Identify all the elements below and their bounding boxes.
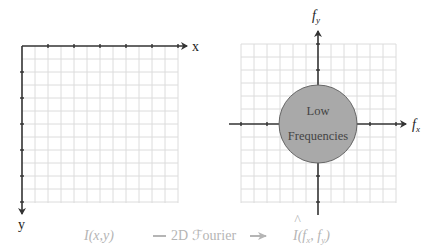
x-axis-label: x: [192, 39, 199, 54]
fy-axis-label: fy: [312, 8, 320, 25]
low-frequencies-circle: [279, 85, 357, 163]
frequency-image-caption: ^ I(fx, fy): [292, 213, 330, 245]
fx-axis-label: fx: [412, 117, 420, 134]
left-grid: [22, 46, 178, 203]
svg-text:^: ^: [294, 213, 301, 228]
circle-label-line1: Low: [307, 104, 330, 118]
svg-text:I(fx, fy): I(fx, fy): [292, 228, 330, 245]
y-axis-label: y: [18, 217, 25, 232]
transform-label: 2D ℱourier: [171, 228, 236, 243]
spatial-image-caption: I(x,y): [83, 228, 114, 244]
circle-label-line2: Frequencies: [288, 129, 349, 143]
fourier-diagram: x y: [0, 0, 443, 252]
left-ticks: [20, 44, 178, 202]
